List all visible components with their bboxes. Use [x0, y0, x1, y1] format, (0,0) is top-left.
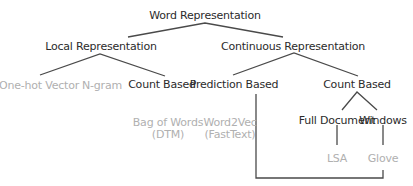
local-connector [40, 54, 165, 76]
node-continuous-representation: Continuous Representation [221, 40, 365, 53]
node-lsa: LSA [327, 152, 347, 165]
node-fasttext: (FastText) [205, 128, 256, 141]
node-one-hot-vector: One-hot Vector [0, 79, 79, 92]
count-based-connector [342, 92, 377, 110]
node-prediction-based: Prediction Based [190, 78, 279, 91]
node-continuous-count-based: Count Based [323, 78, 391, 91]
node-n-gram: N-gram [82, 79, 122, 92]
node-dtm: (DTM) [152, 128, 184, 141]
node-glove: Glove [368, 152, 399, 165]
tree-connectors [0, 0, 413, 186]
root-connector [128, 23, 283, 37]
node-local-count-based: Count Based [128, 78, 196, 91]
continuous-connector [233, 53, 358, 76]
node-word-representation: Word Representation [149, 9, 261, 22]
node-windows: Windows [359, 114, 407, 127]
node-local-representation: Local Representation [45, 40, 157, 53]
prediction-to-glove-connector [256, 94, 383, 178]
